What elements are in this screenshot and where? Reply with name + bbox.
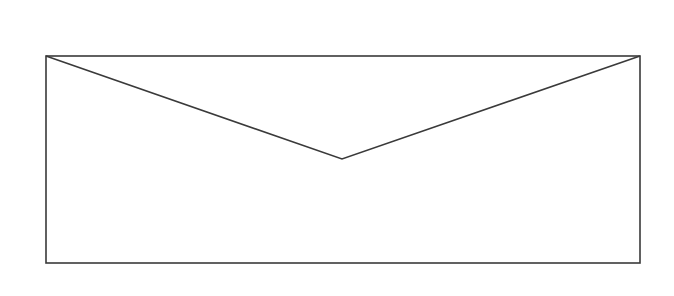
diagram-canvas [0, 0, 674, 296]
envelope-icon [0, 0, 674, 296]
